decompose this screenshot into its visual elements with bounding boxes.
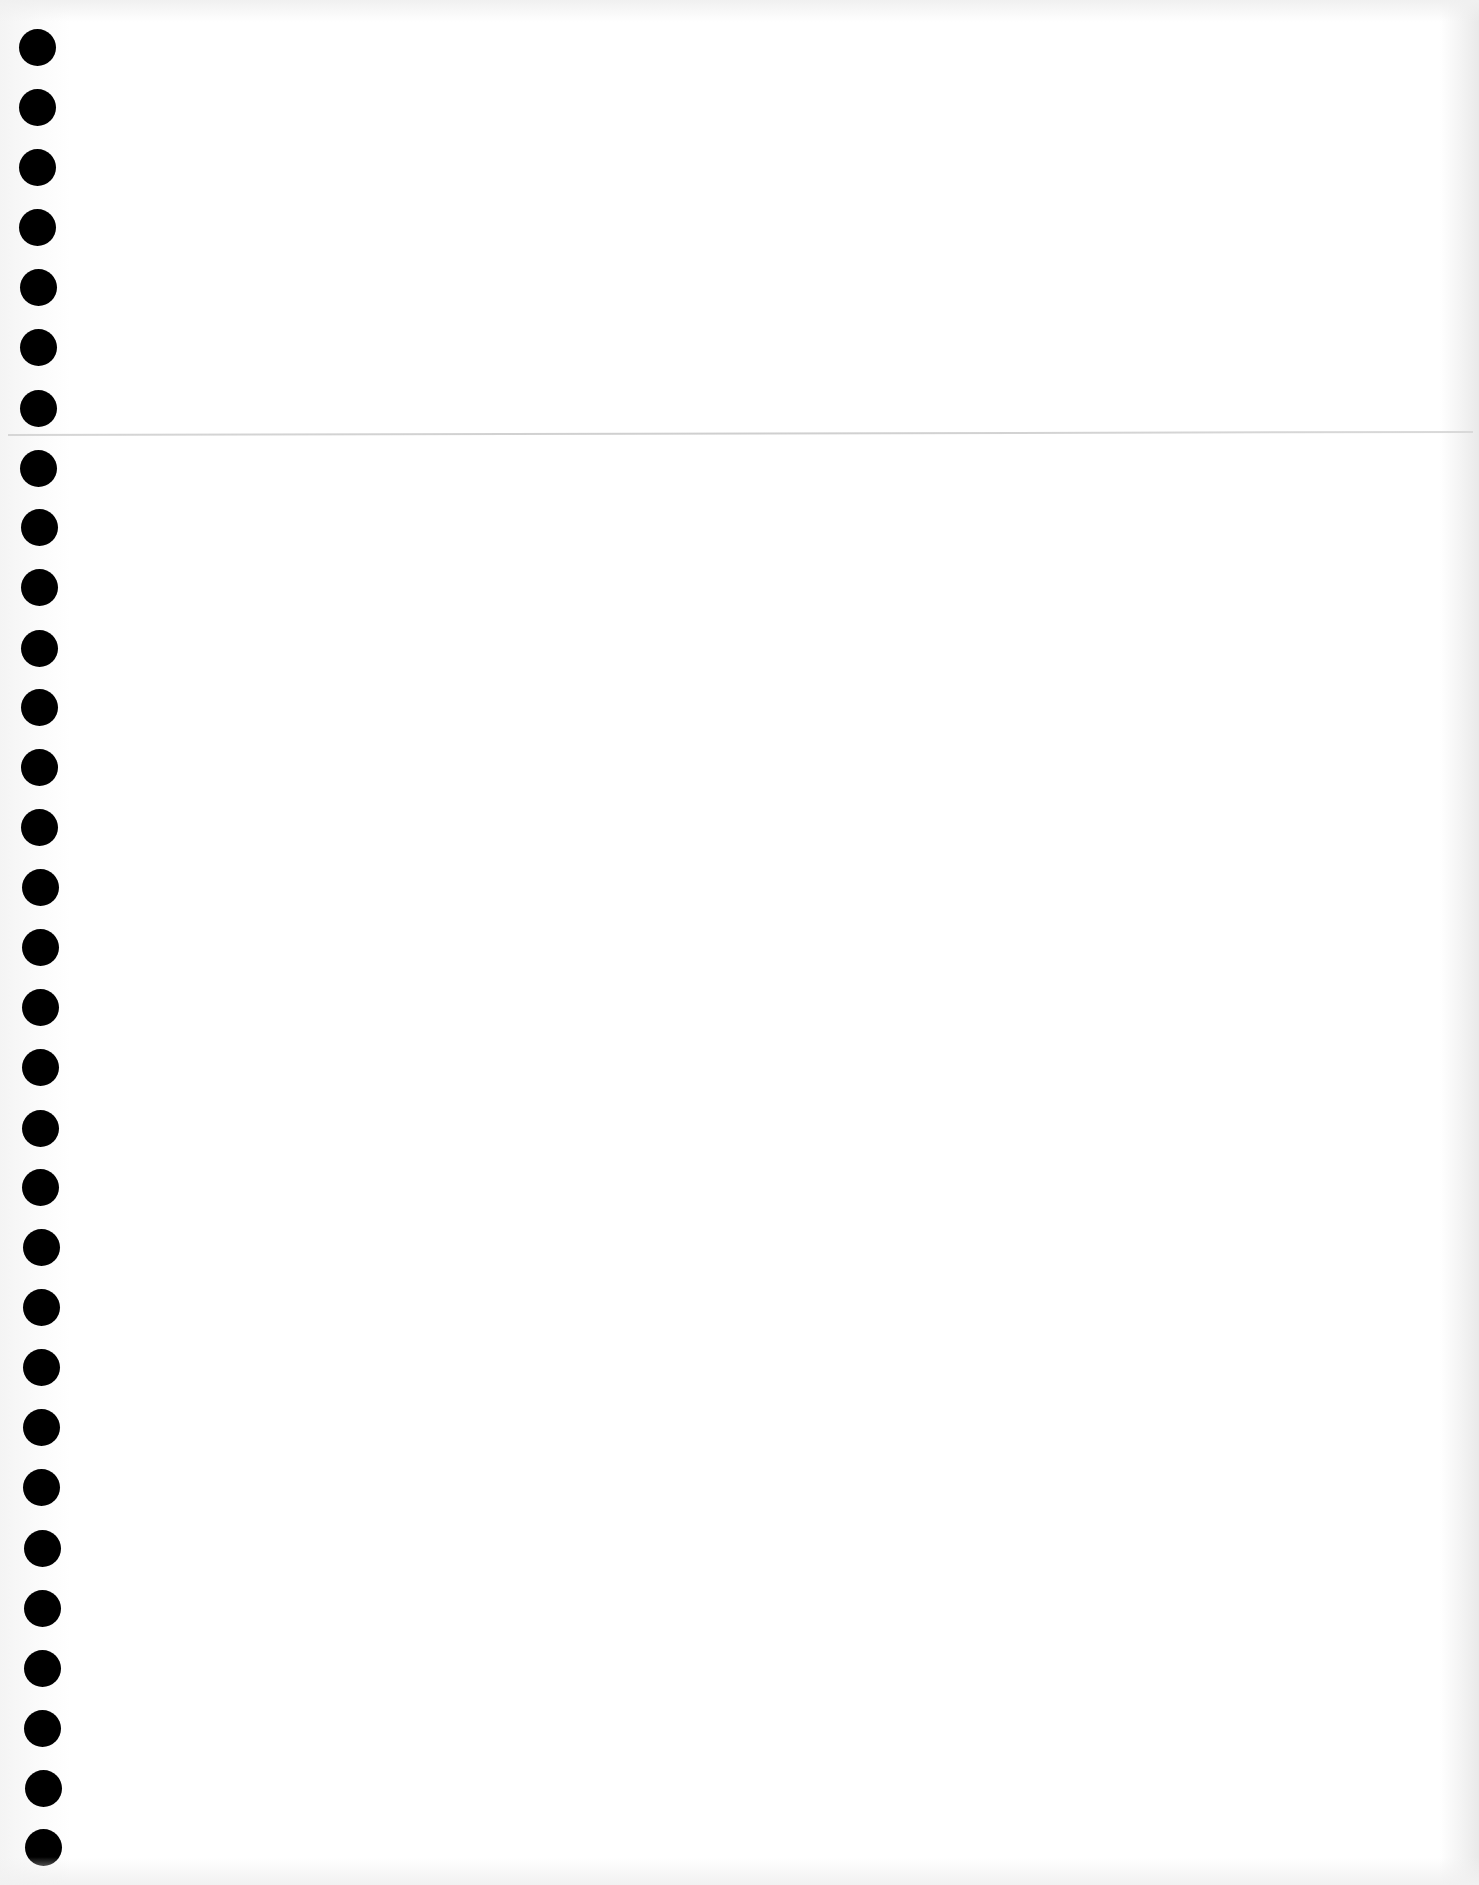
punch-hole (19, 89, 56, 126)
punch-hole (21, 689, 58, 726)
punch-hole (23, 1229, 60, 1266)
punch-hole (24, 1650, 61, 1687)
punch-hole (21, 630, 58, 667)
punch-hole (19, 209, 56, 246)
punch-hole (20, 329, 57, 366)
punch-hole (23, 1289, 60, 1326)
punch-hole (24, 1710, 61, 1747)
punch-hole (21, 569, 58, 606)
punch-hole (23, 1409, 60, 1446)
punch-hole (25, 1770, 62, 1807)
bottom-edge-shadow (0, 1857, 1479, 1885)
punch-hole (23, 1349, 60, 1386)
notebook-page (0, 0, 1479, 1885)
punch-hole (21, 809, 58, 846)
punch-hole (23, 1469, 60, 1506)
horizontal-rule-line (8, 431, 1473, 436)
punch-hole (20, 450, 57, 487)
punch-hole (22, 989, 59, 1026)
punch-hole (20, 269, 57, 306)
punch-hole (24, 1590, 61, 1627)
punch-hole (19, 149, 56, 186)
punch-hole (22, 1169, 59, 1206)
punch-hole-column (0, 0, 80, 1885)
punch-hole (22, 869, 59, 906)
punch-hole (22, 1110, 59, 1147)
punch-hole (20, 390, 57, 427)
top-edge-shadow (0, 0, 1479, 22)
punch-hole (21, 509, 58, 546)
punch-hole (19, 29, 56, 66)
punch-hole (24, 1530, 61, 1567)
punch-hole (21, 749, 58, 786)
punch-hole (22, 1049, 59, 1086)
punch-hole (22, 929, 59, 966)
